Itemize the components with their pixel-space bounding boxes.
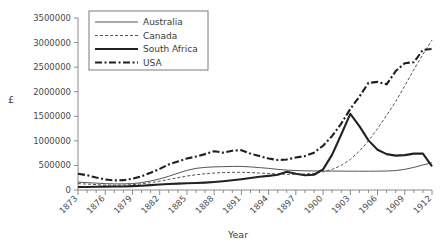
y-tick-label: 500000 [39,160,71,170]
chart-container: 0500000100000015000002000000250000030000… [0,0,441,245]
x-axis-tick-labels: 1873187618791882188518881891189418971900… [57,193,433,215]
x-tick-label: 1876 [84,193,106,215]
legend-label-canada: Canada [143,31,177,41]
y-tick-label: 3000000 [33,38,71,48]
line-chart: 0500000100000015000002000000250000030000… [0,0,441,245]
y-tick-label: 0 [66,185,71,195]
x-tick-label: 1903 [329,193,351,215]
series-line-south-africa [78,114,432,187]
x-tick-label: 1906 [357,193,379,215]
x-tick-label: 1885 [166,193,188,215]
x-tick-label: 1897 [275,193,297,215]
x-tick-label: 1882 [139,193,161,215]
legend-label-south-africa: South Africa [143,44,198,54]
legend-label-australia: Australia [143,17,183,27]
x-tick-label: 1879 [112,193,134,215]
x-axis-title: Year [227,229,248,240]
x-tick-label: 1912 [411,193,433,215]
x-tick-label: 1873 [57,193,79,215]
x-tick-label: 1909 [384,193,406,215]
x-axis: 1873187618791882188518881891189418971900… [57,190,433,240]
y-tick-label: 2500000 [33,62,71,72]
x-tick-label: 1894 [248,193,270,215]
x-axis-ticks [78,190,432,195]
y-tick-label: 1000000 [33,136,71,146]
legend-label-usa: USA [143,58,162,68]
x-tick-label: 1888 [193,193,215,215]
y-tick-label: 1500000 [33,111,71,121]
x-tick-label: 1891 [220,193,242,215]
y-tick-label: 3500000 [33,13,71,23]
x-tick-label: 1900 [302,193,324,215]
chart-legend: AustraliaCanadaSouth AfricaUSA [89,11,208,70]
y-axis-ticks [74,18,78,190]
y-tick-label: 2000000 [33,87,71,97]
y-axis-tick-labels: 0500000100000015000002000000250000030000… [33,13,71,195]
y-axis: 0500000100000015000002000000250000030000… [8,13,78,195]
y-axis-title: £ [8,94,14,105]
